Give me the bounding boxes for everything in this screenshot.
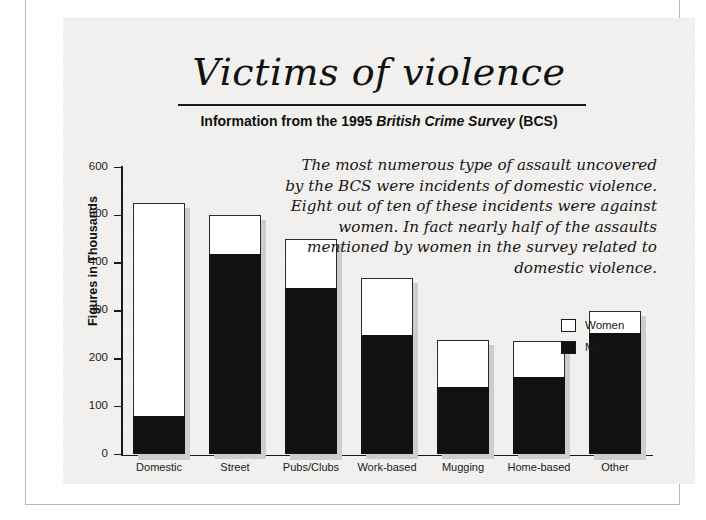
bar-segment-men [133,416,185,454]
page-title: Victims of violence [63,50,695,94]
y-axis-tick [114,167,121,169]
y-axis-tick [114,215,121,217]
legend-label-men: Men [585,341,607,353]
y-axis-tick [114,262,121,264]
y-axis-tick-label: 200 [74,351,108,363]
x-axis-tick-label: Other [570,461,660,473]
bar-segment-women [437,340,489,388]
legend-swatch-men-icon [561,341,576,354]
legend-swatch-women-icon [561,319,576,332]
subtitle-source: British Crime Survey [376,113,515,129]
y-axis-tick [114,454,121,456]
subtitle-suffix: (BCS) [515,113,558,129]
chart-legend: Women Men [561,314,624,358]
y-axis-tick-label: 500 [74,207,108,219]
bar-segment-men [437,387,489,455]
bar-segment-men [209,254,261,455]
bar-segment-men [285,288,337,454]
y-axis-tick [114,406,121,408]
y-axis-tick-label: 100 [74,399,108,411]
page-subtitle: Information from the 1995 British Crime … [63,113,695,129]
legend-label-women: Women [585,319,624,331]
subtitle-prefix: Information from the 1995 [200,113,376,129]
y-axis-tick-label: 600 [74,160,108,172]
bar-segment-men [361,335,413,455]
legend-item-women: Women [561,314,624,336]
y-axis-tick-label: 0 [74,447,108,459]
blurb-text: The most numerous type of assault uncove… [285,155,657,278]
y-axis-tick [114,310,121,312]
y-axis-line [121,166,123,456]
figure-frame: Victims of violence Information from the… [25,0,680,505]
bar-segment-women [361,278,413,336]
figure-plate: Victims of violence Information from the… [63,18,695,484]
title-rule [178,104,586,106]
figure-page: Victims of violence Information from the… [0,0,706,520]
legend-item-men: Men [561,336,624,358]
bar-segment-men [513,377,565,454]
y-axis-tick [114,358,121,360]
y-axis-tick-label: 300 [74,303,108,315]
bar-segment-women [209,215,261,254]
y-axis-tick-label: 400 [74,255,108,267]
bar-segment-women [133,203,185,417]
bar-segment-women [513,341,565,378]
